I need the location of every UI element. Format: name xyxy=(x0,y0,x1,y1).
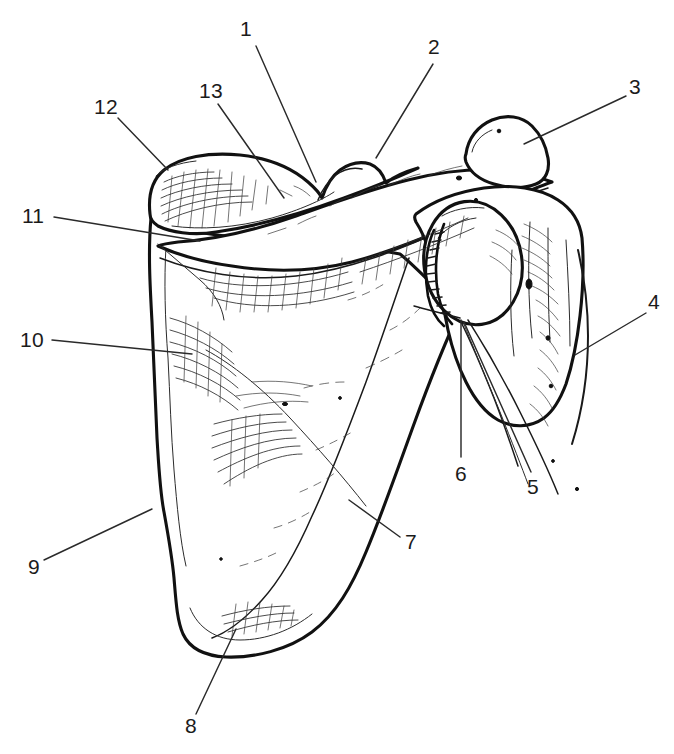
callout-label-4: 4 xyxy=(648,291,660,312)
callout-label-12: 12 xyxy=(94,96,118,117)
scapula-body-group xyxy=(149,218,462,657)
leader-line-9 xyxy=(44,509,152,560)
callout-label-13: 13 xyxy=(199,80,223,101)
callout-label-6: 6 xyxy=(455,463,467,484)
anatomical-figure: 12345678910111213 xyxy=(0,0,674,754)
callout-label-7: 7 xyxy=(405,531,417,552)
acromion-outline xyxy=(465,117,548,188)
callout-label-11: 11 xyxy=(22,205,44,226)
leader-line-4 xyxy=(575,313,646,355)
callout-label-1: 1 xyxy=(240,18,252,39)
callout-label-5: 5 xyxy=(527,476,539,497)
callout-label-10: 10 xyxy=(20,329,44,350)
leader-line-3 xyxy=(524,96,626,144)
callout-label-3: 3 xyxy=(629,76,641,97)
acromion-group xyxy=(465,117,548,188)
callout-label-9: 9 xyxy=(28,556,40,577)
callout-label-2: 2 xyxy=(428,36,440,57)
leader-line-2 xyxy=(376,64,433,158)
scapula-blade-outline xyxy=(149,218,462,657)
leader-line-12 xyxy=(118,118,168,170)
callout-label-8: 8 xyxy=(185,715,197,736)
